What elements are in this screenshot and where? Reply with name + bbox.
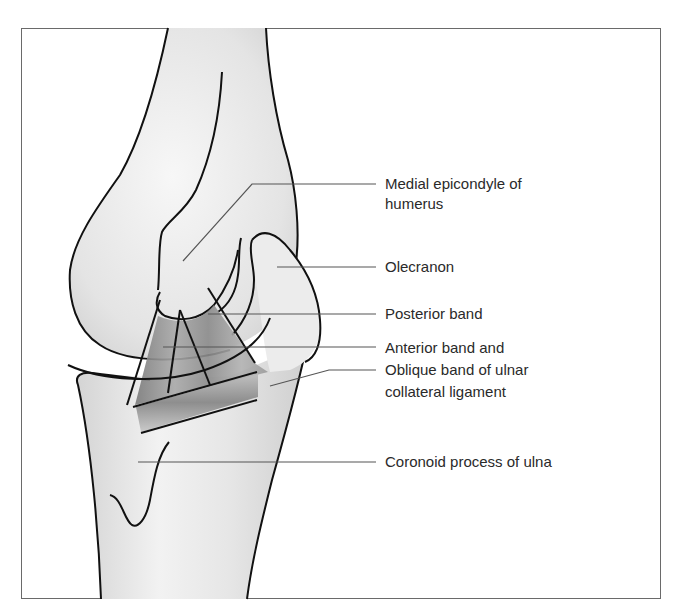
label-medial-epicondyle: Medial epicondyle of humerus: [385, 174, 522, 214]
label-coronoid-process: Coronoid process of ulna: [385, 452, 552, 472]
label-olecranon: Olecranon: [385, 257, 454, 277]
label-line: Olecranon: [385, 257, 454, 277]
label-posterior-band: Posterior band: [385, 304, 483, 324]
label-line: Oblique band of ulnar: [385, 359, 528, 381]
label-line: collateral ligament: [385, 381, 528, 403]
label-line: Posterior band: [385, 304, 483, 324]
label-line: humerus: [385, 194, 522, 214]
elbow-illustration: [0, 0, 675, 613]
label-line: Coronoid process of ulna: [385, 452, 552, 472]
label-line: Anterior band and: [385, 337, 528, 359]
label-line: Medial epicondyle of: [385, 174, 522, 194]
label-anterior-oblique-band: Anterior band and Oblique band of ulnar …: [385, 337, 528, 403]
